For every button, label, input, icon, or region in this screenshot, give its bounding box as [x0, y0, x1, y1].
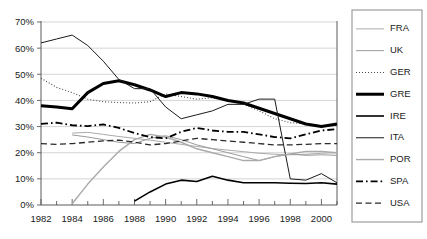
x-tick-label: 1984: [62, 213, 83, 224]
x-tick-label: 1996: [249, 213, 270, 224]
line-chart: 0%10%20%30%40%50%60%70% 1982198419861988…: [0, 0, 427, 239]
legend-label-ire: IRE: [390, 110, 406, 121]
axis-lines: [41, 21, 337, 205]
legend-label-por: POR: [390, 153, 411, 164]
series-line-ita: [41, 35, 337, 183]
series-line-gre: [41, 81, 337, 127]
y-tick-label: 30%: [15, 121, 35, 132]
y-tick-label: 40%: [15, 95, 35, 106]
legend-label-uk: UK: [390, 44, 404, 55]
legend-label-ger: GER: [390, 66, 411, 77]
y-tick-label: 70%: [15, 16, 35, 27]
x-tick-label: 1990: [155, 213, 176, 224]
legend-label-gre: GRE: [390, 88, 411, 99]
x-tick-label: 1986: [93, 213, 114, 224]
series-line-spa: [41, 123, 337, 139]
x-tick-label: 1988: [124, 213, 145, 224]
legend-label-fra: FRA: [390, 22, 410, 33]
x-tick-label: 1998: [280, 213, 301, 224]
legend-label-spa: SPA: [390, 175, 409, 186]
series-line-usa: [41, 138, 337, 145]
x-tick-label: 2000: [311, 213, 332, 224]
y-tick-label: 0%: [20, 199, 34, 210]
chart-container: 0%10%20%30%40%50%60%70% 1982198419861988…: [0, 0, 427, 239]
grid-lines: [41, 22, 337, 179]
legend-label-ita: ITA: [390, 131, 405, 142]
legend: FRAUKGERGREIREITAPORSPAUSA: [352, 10, 422, 222]
y-tick-label: 20%: [15, 147, 35, 158]
x-axis-tick-labels: 1982198419861988199019921994199619982000: [30, 213, 332, 224]
x-tick-label: 1992: [186, 213, 207, 224]
y-tick-label: 60%: [15, 43, 35, 54]
x-tick-label: 1982: [30, 213, 51, 224]
y-tick-label: 50%: [15, 69, 35, 80]
y-axis-tick-labels: 0%10%20%30%40%50%60%70%: [15, 16, 35, 210]
tick-marks: [37, 22, 337, 205]
data-series-group: [41, 35, 337, 204]
x-tick-label: 1994: [217, 213, 238, 224]
legend-label-usa: USA: [390, 197, 410, 208]
y-tick-label: 10%: [15, 173, 35, 184]
